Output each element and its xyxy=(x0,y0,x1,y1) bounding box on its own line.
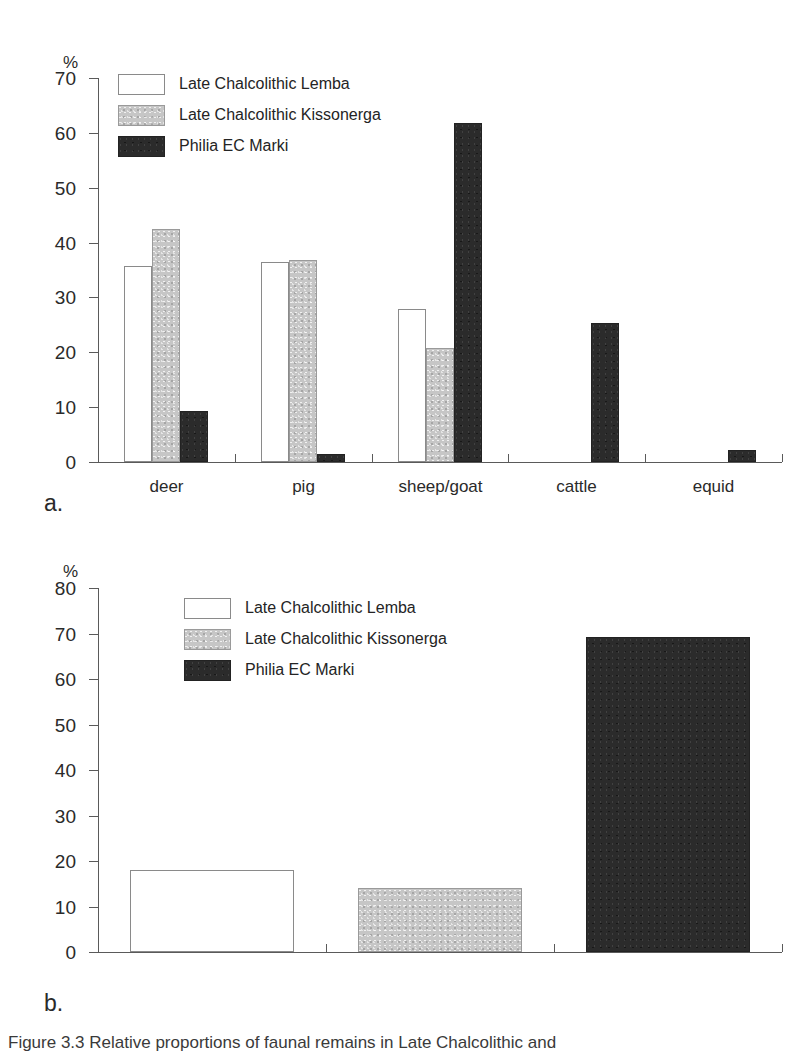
bar xyxy=(124,266,152,462)
y-axis-tick-label: 70 xyxy=(32,625,76,644)
open-white-swatch xyxy=(118,74,165,95)
dark-charcoal-swatch xyxy=(118,136,165,157)
y-axis-tick xyxy=(89,243,98,244)
x-axis-tick xyxy=(326,944,327,952)
dark-charcoal-swatch xyxy=(184,660,231,681)
bar xyxy=(152,229,180,462)
y-axis-tick-label: 30 xyxy=(32,288,76,307)
legend-label: Late Chalcolithic Lemba xyxy=(179,76,350,92)
light-grey-swatch xyxy=(118,105,165,126)
y-axis-tick xyxy=(89,188,98,189)
panel-a-figure: % 010203040506070 deerpigsheep/goatcattl… xyxy=(0,0,812,540)
x-axis-tick xyxy=(235,454,236,462)
legend-row: Philia EC Marki xyxy=(184,659,447,681)
light-grey-swatch xyxy=(184,629,231,650)
y-axis-tick-label: 0 xyxy=(32,943,76,962)
y-axis-tick xyxy=(89,133,98,134)
x-axis-tick xyxy=(372,454,373,462)
legend-row: Late Chalcolithic Kissonerga xyxy=(118,104,381,126)
y-axis-tick xyxy=(89,634,98,635)
bar xyxy=(398,309,426,462)
bar xyxy=(261,262,289,462)
y-axis-tick xyxy=(89,952,98,953)
y-axis-tick xyxy=(89,588,98,589)
figure-caption: Figure 3.3 Relative proportions of fauna… xyxy=(0,1036,812,1053)
y-axis-tick-label: 40 xyxy=(32,761,76,780)
legend-row: Philia EC Marki xyxy=(118,135,381,157)
y-axis-tick-label: 60 xyxy=(32,124,76,143)
legend-label: Philia EC Marki xyxy=(245,662,354,678)
legend-row: Late Chalcolithic Lemba xyxy=(118,73,381,95)
x-axis-category-label: equid xyxy=(645,478,782,495)
legend-row: Late Chalcolithic Kissonerga xyxy=(184,628,447,650)
bar xyxy=(591,323,619,462)
x-axis-tick xyxy=(98,944,99,952)
y-axis-tick xyxy=(89,462,98,463)
y-axis-tick-label: 50 xyxy=(32,179,76,198)
x-axis-category-label: cattle xyxy=(508,478,645,495)
y-axis-tick xyxy=(89,907,98,908)
bar xyxy=(358,888,522,952)
y-axis-tick-label: 60 xyxy=(32,670,76,689)
x-axis-tick xyxy=(554,944,555,952)
x-axis-tick xyxy=(782,454,783,462)
y-axis-tick-label: 80 xyxy=(32,579,76,598)
y-axis-tick-label: 0 xyxy=(32,453,76,472)
legend-row: Late Chalcolithic Lemba xyxy=(184,597,447,619)
y-axis-tick xyxy=(89,679,98,680)
y-axis-tick-label: 10 xyxy=(32,398,76,417)
y-axis-tick-label: 10 xyxy=(32,898,76,917)
figure-caption-text: Figure 3.3 Relative proportions of fauna… xyxy=(8,1036,556,1053)
open-white-swatch xyxy=(184,598,231,619)
x-axis-tick xyxy=(782,944,783,952)
panel-a-legend: Late Chalcolithic LembaLate Chalcolithic… xyxy=(118,73,381,166)
panel-a-y-axis xyxy=(98,78,99,463)
bar xyxy=(289,260,317,462)
x-axis-tick xyxy=(508,454,509,462)
legend-label: Philia EC Marki xyxy=(179,138,288,154)
x-axis-category-label: sheep/goat xyxy=(372,478,509,495)
y-axis-tick xyxy=(89,352,98,353)
panel-a-x-axis xyxy=(98,462,782,463)
panel-b-x-axis xyxy=(98,952,782,953)
x-axis-category-label: deer xyxy=(98,478,235,495)
legend-label: Late Chalcolithic Kissonerga xyxy=(245,631,447,647)
y-axis-tick xyxy=(89,725,98,726)
panel-b-letter: b. xyxy=(44,990,63,1017)
panel-a-letter: a. xyxy=(44,490,63,517)
y-axis-tick xyxy=(89,297,98,298)
bar xyxy=(180,411,208,462)
legend-label: Late Chalcolithic Lemba xyxy=(245,600,416,616)
panel-b-figure: % 01020304050607080 Late Chalcolithic Le… xyxy=(0,540,812,1053)
bar xyxy=(426,348,454,462)
y-axis-tick-label: 40 xyxy=(32,234,76,253)
y-axis-tick-label: 50 xyxy=(32,716,76,735)
x-axis-tick xyxy=(98,454,99,462)
bar xyxy=(728,450,756,462)
bar xyxy=(130,870,294,952)
y-axis-tick xyxy=(89,861,98,862)
bar xyxy=(586,637,750,952)
bar xyxy=(454,123,482,462)
y-axis-tick xyxy=(89,78,98,79)
y-axis-tick-label: 70 xyxy=(32,69,76,88)
y-axis-tick-label: 20 xyxy=(32,343,76,362)
y-axis-tick-label: 30 xyxy=(32,807,76,826)
x-axis-tick xyxy=(645,454,646,462)
bar xyxy=(317,454,345,462)
y-axis-tick xyxy=(89,407,98,408)
y-axis-tick-label: 20 xyxy=(32,852,76,871)
panel-b-y-axis xyxy=(98,588,99,953)
panel-b-legend: Late Chalcolithic LembaLate Chalcolithic… xyxy=(184,597,447,690)
y-axis-tick xyxy=(89,770,98,771)
y-axis-tick xyxy=(89,816,98,817)
x-axis-category-label: pig xyxy=(235,478,372,495)
legend-label: Late Chalcolithic Kissonerga xyxy=(179,107,381,123)
